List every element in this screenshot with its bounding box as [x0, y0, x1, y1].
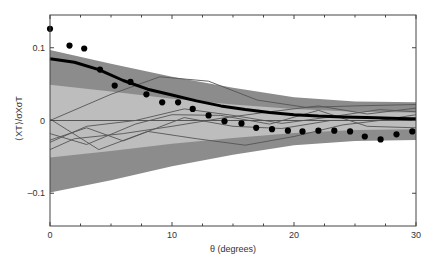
- data-point: [299, 128, 305, 134]
- data-point: [190, 106, 196, 112]
- data-point: [112, 83, 118, 89]
- data-point: [81, 45, 87, 51]
- data-point: [143, 91, 149, 97]
- data-point: [378, 136, 384, 142]
- data-point: [66, 43, 72, 49]
- data-point: [269, 126, 275, 132]
- data-point: [127, 79, 133, 85]
- y-tick-label: –0.1: [27, 188, 45, 198]
- x-tick-label: 30: [411, 230, 421, 240]
- data-point: [285, 128, 291, 134]
- plot-area: [47, 26, 416, 193]
- data-point: [409, 128, 415, 134]
- data-point: [221, 118, 227, 124]
- data-point: [331, 128, 337, 134]
- y-axis-label: ⟨XT⟩/σXσT: [14, 96, 24, 141]
- data-point: [175, 99, 181, 105]
- x-axis-label: θ (degrees): [210, 244, 256, 254]
- data-point: [238, 120, 244, 126]
- data-point: [159, 99, 165, 105]
- y-tick-label: 0: [40, 116, 45, 126]
- data-point: [347, 128, 353, 134]
- data-point: [362, 133, 368, 139]
- correlation-chart: 0102030 0.10–0.1 θ (degrees) ⟨XT⟩/σXσT: [0, 0, 435, 265]
- data-point: [253, 125, 259, 131]
- x-tick-label: 20: [289, 230, 299, 240]
- data-point: [206, 112, 212, 118]
- data-point: [97, 67, 103, 73]
- data-point: [393, 131, 399, 137]
- data-point: [315, 128, 321, 134]
- x-tick-label: 0: [47, 230, 52, 240]
- y-tick-label: 0.1: [32, 43, 45, 53]
- x-tick-label: 10: [167, 230, 177, 240]
